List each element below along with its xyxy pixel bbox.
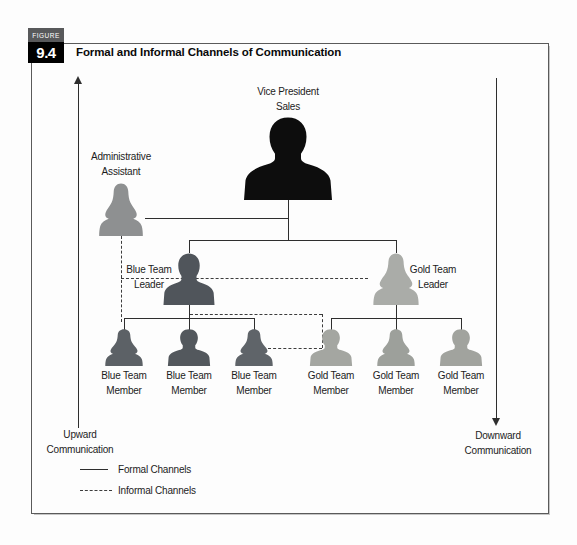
downward-communication-label: Downward Communication xyxy=(465,428,532,458)
upward-arrowhead-icon xyxy=(74,76,82,84)
blue-member-2-line2: Member xyxy=(166,383,211,398)
figure-number: 9.4 xyxy=(28,42,64,63)
gold-member-2-label: Gold Team Member xyxy=(373,368,419,398)
gold-member-1-line1: Gold Team xyxy=(308,368,354,383)
blue-leader-label: Blue Team Leader xyxy=(126,262,171,292)
downward-label-line2: Communication xyxy=(465,443,532,458)
legend-formal-label: Formal Channels xyxy=(118,464,191,475)
blue-member-1-silhouette xyxy=(100,328,148,366)
blue-member-1-label: Blue Team Member xyxy=(101,368,146,398)
frame-right-shadow xyxy=(549,46,550,515)
frame-left-border xyxy=(31,63,32,513)
blue-leader-label-line1: Blue Team xyxy=(126,262,171,277)
blue-member-2-label: Blue Team Member xyxy=(166,368,211,398)
blue-member-3-silhouette xyxy=(230,328,278,366)
informal-line-blue-leader-right xyxy=(190,314,322,315)
blue-member-2-line1: Blue Team xyxy=(166,368,211,383)
legend-formal-line-sample xyxy=(80,469,108,470)
formal-line-gold-leader-stem xyxy=(396,304,397,318)
gold-leader-label-line1: Gold Team xyxy=(410,262,456,277)
frame-bottom-shadow xyxy=(34,514,550,515)
blue-leader-label-line2: Leader xyxy=(126,277,171,292)
upward-arrow-shaft xyxy=(78,84,79,428)
blue-member-3-line1: Blue Team xyxy=(231,368,276,383)
frame-top-border xyxy=(64,43,548,44)
gold-member-3-line1: Gold Team xyxy=(438,368,484,383)
gold-leader-label-line2: Leader xyxy=(410,277,456,292)
downward-label-line1: Downward xyxy=(465,428,532,443)
formal-line-blue-leader-stem xyxy=(189,304,190,318)
upward-communication-label: Upward Communication xyxy=(47,427,114,457)
figure-title: Formal and Informal Channels of Communic… xyxy=(76,46,341,58)
gold-member-2-line1: Gold Team xyxy=(373,368,419,383)
gold-member-3-line2: Member xyxy=(438,383,484,398)
admin-label-line1: Administrative xyxy=(91,149,151,164)
gold-member-3-silhouette xyxy=(437,328,485,366)
gold-member-1-line2: Member xyxy=(308,383,354,398)
gold-member-2-line2: Member xyxy=(373,383,419,398)
vp-label-line2: Sales xyxy=(257,99,319,114)
blue-member-1-line1: Blue Team xyxy=(101,368,146,383)
downward-arrowhead-icon xyxy=(492,418,500,426)
legend-informal-line-sample xyxy=(80,490,112,491)
downward-arrow-shaft xyxy=(496,78,497,418)
formal-line-admin-to-vp xyxy=(145,218,288,219)
gold-member-1-silhouette xyxy=(307,328,355,366)
gold-member-1-label: Gold Team Member xyxy=(308,368,354,398)
figure-eyebrow: FIGURE xyxy=(28,28,64,42)
formal-line-leader-branch xyxy=(189,240,397,241)
vp-label: Vice President Sales xyxy=(257,84,319,114)
blue-member-1-line2: Member xyxy=(101,383,146,398)
formal-line-vp-drop xyxy=(288,200,289,240)
gold-member-3-label: Gold Team Member xyxy=(438,368,484,398)
blue-member-2-silhouette xyxy=(165,328,213,366)
figure-9-4: FIGURE 9.4 Formal and Informal Channels … xyxy=(0,0,577,545)
blue-member-3-line2: Member xyxy=(231,383,276,398)
upward-label-line1: Upward xyxy=(47,427,114,442)
admin-assistant-silhouette xyxy=(93,182,149,236)
figure-number-box: FIGURE 9.4 xyxy=(28,28,64,63)
vp-silhouette xyxy=(238,115,338,200)
informal-line-admin-down xyxy=(121,236,122,322)
gold-member-2-silhouette xyxy=(372,328,420,366)
upward-label-line2: Communication xyxy=(47,442,114,457)
vp-label-line1: Vice President xyxy=(257,84,319,99)
admin-label-line2: Assistant xyxy=(91,164,151,179)
admin-assistant-label: Administrative Assistant xyxy=(91,149,151,179)
legend-informal-label: Informal Channels xyxy=(118,485,196,496)
gold-leader-label: Gold Team Leader xyxy=(410,262,456,292)
blue-member-3-label: Blue Team Member xyxy=(231,368,276,398)
